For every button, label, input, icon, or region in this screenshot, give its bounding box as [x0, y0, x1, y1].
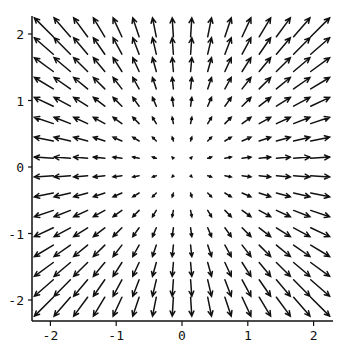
vector-arrow: [311, 210, 330, 217]
vector-arrow: [113, 193, 122, 197]
vector-arrow: [294, 280, 310, 296]
vector-arrow: [276, 193, 290, 198]
vector-arrow: [172, 210, 174, 216]
vector-arrow: [294, 155, 310, 160]
vector-arrow: [93, 137, 104, 141]
vector-arrow: [208, 117, 212, 123]
vector-arrow: [151, 38, 156, 54]
vector-arrow: [133, 263, 139, 277]
vector-arrow: [170, 18, 175, 37]
vector-arrow: [311, 280, 330, 296]
vector-arrow: [151, 280, 156, 296]
vector-arrow: [153, 157, 157, 159]
vector-arrow: [113, 58, 122, 72]
vector-arrow: [74, 228, 88, 237]
vector-arrow: [259, 228, 270, 237]
vector-arrow: [242, 18, 251, 37]
vector-arrow: [189, 297, 194, 316]
vector-arrow: [242, 38, 251, 54]
vector-arrow: [225, 117, 231, 123]
vector-arrow: [191, 117, 193, 123]
vector-arrow: [225, 297, 232, 316]
vector-arrow: [242, 117, 251, 123]
vector-arrow: [311, 245, 330, 256]
vector-arrow: [153, 117, 157, 123]
vector-arrow: [311, 58, 330, 72]
vector-arrows: [34, 18, 329, 316]
vector-arrow: [93, 38, 104, 54]
vector-arrow: [190, 193, 192, 197]
vector-arrow: [133, 210, 139, 216]
vector-arrow: [208, 78, 212, 89]
vector-arrow: [34, 245, 53, 256]
x-tick-label: -2: [43, 328, 59, 343]
vector-arrow: [208, 157, 212, 159]
vector-arrow: [113, 156, 122, 159]
vector-arrow: [54, 228, 70, 237]
vector-arrow: [208, 228, 212, 237]
vector-arrow: [294, 18, 310, 37]
vector-arrow: [34, 38, 53, 54]
vector-arrow: [113, 38, 122, 54]
vector-arrow: [294, 210, 310, 217]
vector-arrow: [54, 97, 70, 106]
vector-arrow: [259, 245, 270, 256]
vector-arrow: [259, 38, 270, 54]
vector-arrow: [113, 18, 122, 37]
vector-arrow: [225, 137, 231, 141]
vector-arrow: [151, 297, 156, 316]
vector-arrow: [225, 210, 231, 216]
vector-arrow: [113, 78, 122, 89]
vector-arrow: [93, 245, 104, 256]
vector-arrow: [259, 193, 270, 197]
vector-arrow: [132, 38, 139, 54]
vector-arrow: [74, 38, 88, 54]
vector-arrow: [170, 263, 174, 277]
vector-arrow: [132, 18, 139, 37]
y-tick-label: -2: [8, 293, 24, 308]
y-tick-label: -1: [8, 227, 24, 242]
vector-arrow: [74, 58, 88, 72]
vector-arrow: [153, 210, 157, 216]
vector-arrow: [225, 97, 231, 106]
vector-arrow: [133, 245, 139, 256]
vector-arrow: [276, 97, 290, 106]
vector-arrow: [225, 78, 231, 89]
vector-arrow: [294, 174, 310, 179]
vector-arrow: [190, 228, 193, 237]
vector-arrow: [93, 263, 104, 277]
vector-arrow: [74, 210, 88, 216]
vector-arrow: [74, 136, 88, 141]
vector-arrow: [133, 157, 139, 159]
vector-arrow: [170, 58, 174, 72]
vector-arrow: [74, 193, 88, 198]
vector-arrow: [311, 78, 330, 89]
vector-arrow: [225, 58, 231, 72]
vector-arrow: [276, 155, 290, 159]
vector-arrow: [276, 38, 290, 54]
vector-arrow: [225, 157, 231, 159]
vector-arrow: [113, 245, 122, 256]
vector-arrow: [54, 297, 70, 316]
vector-arrow: [311, 18, 330, 37]
vector-arrow: [294, 297, 310, 316]
vector-arrow: [152, 245, 156, 256]
vector-arrow: [171, 245, 175, 256]
vector-arrow: [93, 58, 104, 72]
vector-arrow: [208, 58, 213, 72]
vector-arrow: [208, 18, 213, 37]
vector-arrow: [242, 137, 251, 141]
y-tick-label: 2: [16, 27, 24, 42]
vector-arrow: [113, 280, 122, 296]
vector-arrow: [208, 280, 213, 296]
vector-arrow: [93, 78, 104, 89]
vector-arrow: [189, 18, 194, 37]
vector-arrow: [311, 38, 330, 54]
vector-arrow: [311, 297, 330, 316]
vector-arrow: [259, 280, 270, 296]
vector-arrow: [54, 136, 70, 141]
vector-arrow: [93, 156, 104, 160]
vector-arrow: [259, 175, 270, 179]
vector-arrow: [93, 97, 104, 106]
vector-arrow: [172, 137, 174, 141]
